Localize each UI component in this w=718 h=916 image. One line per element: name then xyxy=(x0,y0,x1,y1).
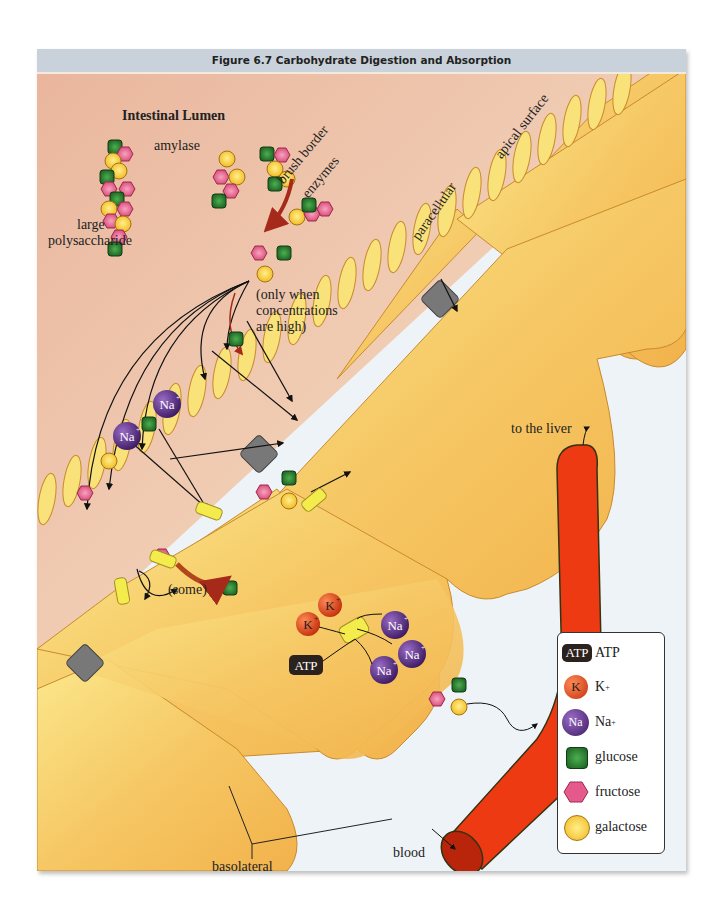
label-intestinal-lumen: Intestinal Lumen xyxy=(122,108,225,123)
label-blood: blood xyxy=(393,845,425,860)
sodium-ion xyxy=(113,422,141,450)
legend-item-potassium: K K+ xyxy=(562,673,610,701)
potassium-icon: K xyxy=(562,674,590,700)
label-amylase: amylase xyxy=(154,138,200,153)
label-basolateral: basolateral xyxy=(212,859,273,871)
sodium-icon: Na xyxy=(562,709,590,735)
fructose-icon xyxy=(562,779,590,805)
galactose-free xyxy=(257,266,273,282)
atp-icon: ATP xyxy=(562,640,590,666)
legend-item-galactose: galactose xyxy=(562,813,647,841)
label-concentrations: concentrations xyxy=(256,303,338,318)
figure-title: Figure 6.7 Carbohydrate Digestion and Ab… xyxy=(37,49,686,74)
sodium-ion xyxy=(370,656,398,684)
glucose-icon xyxy=(562,744,590,770)
legend-item-atp: ATP ATP xyxy=(562,639,620,667)
galactose-icon xyxy=(562,814,590,840)
label-to-the-liver: to the liver xyxy=(511,421,572,436)
sodium-ion xyxy=(398,640,426,668)
legend: ATP ATP K K+ Na Na+ glucose fructose gal… xyxy=(557,632,665,854)
svg-text:ATP: ATP xyxy=(294,658,317,673)
atp-box: ATP xyxy=(289,655,323,675)
glucose-free xyxy=(277,246,291,260)
legend-item-sodium: Na Na+ xyxy=(562,708,616,736)
label-large: large xyxy=(77,217,105,232)
label-only-when: (only when xyxy=(256,287,319,302)
potassium-ion xyxy=(296,612,320,636)
fructose-free xyxy=(251,246,267,260)
legend-item-glucose: glucose xyxy=(562,743,638,771)
label-some: (some) xyxy=(168,582,207,597)
sodium-ion xyxy=(381,611,409,639)
legend-item-fructose: fructose xyxy=(562,778,640,806)
sodium-ion xyxy=(153,390,181,418)
potassium-ion xyxy=(318,593,342,617)
label-polysaccharide: polysaccharide xyxy=(48,233,132,248)
label-are-high: are high) xyxy=(256,319,306,334)
